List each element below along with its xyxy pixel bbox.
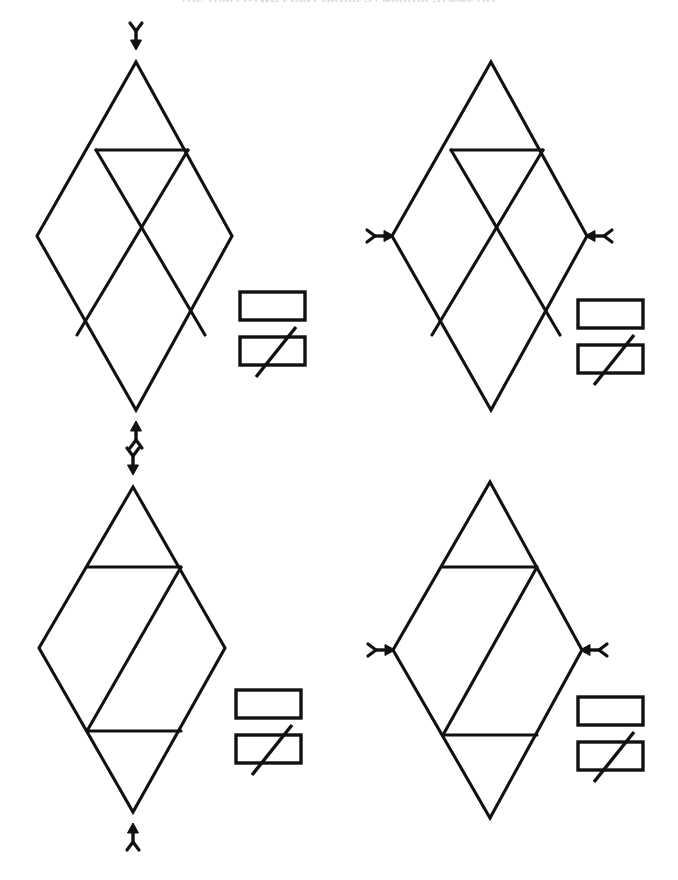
- center-diagonal: [443, 567, 537, 735]
- panel-bottom-right: [368, 482, 643, 818]
- mirror-plane-rect-slashed: [236, 735, 301, 763]
- mirror-plane-slash: [252, 725, 292, 775]
- two-fold-axis-arrow-right: [368, 644, 395, 656]
- mirror-plane-slash: [256, 327, 296, 377]
- mirror-plane-symbol-pair: [578, 697, 643, 782]
- mirror-plane-slash: [594, 335, 634, 385]
- mirror-plane-symbol-pair: [578, 300, 643, 385]
- two-fold-axis-arrow-down: [127, 448, 139, 475]
- center-diagonal: [87, 567, 181, 731]
- mirror-plane-rect-plain: [240, 292, 305, 320]
- right-diagonal: [432, 150, 543, 335]
- two-fold-axis-arrow-left: [580, 644, 607, 656]
- right-diagonal: [77, 150, 188, 335]
- mirror-plane-rect-plain: [578, 300, 643, 328]
- two-fold-axis-arrow-up: [127, 823, 139, 850]
- figure-page: THE THIRTY-TWO POINT GROUPS / MIRROR SYM…: [0, 0, 678, 880]
- rhombus-outline: [393, 482, 582, 818]
- two-fold-axis-arrow-down: [130, 23, 142, 50]
- mirror-plane-slash: [594, 732, 634, 782]
- mirror-plane-rect-slashed: [578, 345, 643, 373]
- left-diagonal: [96, 150, 205, 335]
- mirror-plane-symbol-pair: [236, 690, 301, 775]
- left-diagonal: [451, 150, 560, 335]
- two-fold-axis-arrow-left: [585, 230, 612, 242]
- two-fold-axis-arrow-up: [130, 421, 142, 448]
- symmetry-diagram-figure: [0, 0, 678, 880]
- mirror-plane-rect-plain: [236, 690, 301, 718]
- mirror-plane-symbol-pair: [240, 292, 305, 377]
- panel-top-right: [367, 62, 643, 410]
- mirror-plane-rect-slashed: [578, 742, 643, 770]
- panel-top-left: [37, 23, 305, 448]
- rhombus-outline: [392, 62, 587, 410]
- rhombus-outline: [37, 62, 232, 410]
- mirror-plane-rect-slashed: [240, 337, 305, 365]
- mirror-plane-rect-plain: [578, 697, 643, 725]
- panel-bottom-left: [39, 448, 301, 850]
- two-fold-axis-arrow-right: [367, 230, 394, 242]
